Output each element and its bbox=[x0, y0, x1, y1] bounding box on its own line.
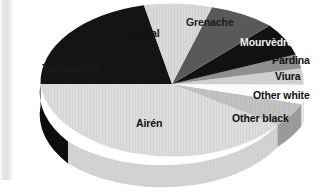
slice-label-viura: Viura bbox=[275, 71, 301, 82]
slice-label-bobal: Bobal bbox=[131, 28, 160, 39]
pie-slice-faces bbox=[40, 3, 303, 156]
slice-label-pardina: Pardina bbox=[272, 55, 310, 66]
slice-label-other-black: Other black bbox=[232, 113, 289, 124]
slice-label-other-white: Other white bbox=[253, 90, 310, 101]
pie-chart: Bobal Grenache Mourvèdre Pardina Viura O… bbox=[0, 0, 334, 195]
slice-label-airen: Airén bbox=[136, 118, 162, 129]
screenshot-root: Bobal Grenache Mourvèdre Pardina Viura O… bbox=[0, 0, 334, 195]
slice-label-grenache: Grenache bbox=[186, 17, 234, 28]
slice-label-mourvedre: Mourvèdre bbox=[240, 37, 293, 48]
wall-other-white bbox=[302, 100, 305, 126]
slice-label-tempranillo: Tempranillo bbox=[42, 63, 100, 74]
